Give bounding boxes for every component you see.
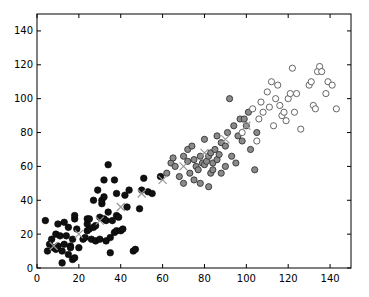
cluster-2-point xyxy=(233,160,239,166)
cluster-1-point xyxy=(105,161,112,168)
cluster-1-point xyxy=(67,244,74,251)
cluster-3-point xyxy=(256,116,262,122)
cluster-3-point xyxy=(289,65,295,71)
cluster-1-point xyxy=(97,236,104,243)
cluster-2-point xyxy=(222,143,228,149)
cluster-1-point xyxy=(101,194,108,201)
cluster-3-point xyxy=(275,82,281,88)
y-tick-label: 100 xyxy=(14,93,33,104)
cluster-3-point xyxy=(323,90,329,96)
cluster-2-point xyxy=(191,177,197,183)
cluster-2-point xyxy=(197,180,203,186)
cluster-2-point xyxy=(231,123,237,129)
y-tick-label: 40 xyxy=(20,195,33,206)
cluster-3-point xyxy=(277,102,283,108)
cluster-1-point xyxy=(107,249,114,256)
cluster-2-point xyxy=(218,170,224,176)
cluster-2-point xyxy=(229,153,235,159)
cluster-1-point xyxy=(65,224,72,231)
cluster-3-point xyxy=(273,96,279,102)
cluster-1-point xyxy=(115,214,122,221)
cluster-3-point xyxy=(239,129,245,135)
y-tick-label: 0 xyxy=(27,263,33,274)
cluster-3-point xyxy=(260,109,266,115)
cluster-3-point xyxy=(270,123,276,129)
cluster-1-point xyxy=(90,197,97,204)
x-tick-label: 0 xyxy=(34,273,40,284)
cluster-3-point xyxy=(266,104,272,110)
cluster-2-point xyxy=(241,116,247,122)
cluster-3-point xyxy=(333,106,339,112)
cluster-3-point xyxy=(283,118,289,124)
x-tick-label: 100 xyxy=(237,273,256,284)
cluster-2-point xyxy=(191,157,197,163)
y-tick-label: 80 xyxy=(20,127,33,138)
cluster-3-point xyxy=(254,138,260,144)
cluster-1-point xyxy=(136,205,143,212)
cluster-3-point xyxy=(264,89,270,95)
cluster-1-point xyxy=(126,187,133,194)
cluster-1-point xyxy=(55,221,62,228)
cluster-3-point xyxy=(298,126,304,132)
cluster-1-point xyxy=(101,177,108,184)
cluster-3-point xyxy=(329,82,335,88)
cluster-2-point xyxy=(180,180,186,186)
cluster-3-point xyxy=(281,109,287,115)
cluster-2-point xyxy=(247,146,253,152)
x-tick-label: 40 xyxy=(114,273,127,284)
cluster-2-point xyxy=(216,151,222,157)
cluster-2-point xyxy=(185,158,191,164)
cluster-1-point xyxy=(92,222,99,229)
cluster-1-point xyxy=(69,236,76,243)
cluster-1-point xyxy=(44,248,51,255)
cluster-1-point xyxy=(61,241,68,248)
cluster-2-point xyxy=(226,96,232,102)
cluster-2-point xyxy=(164,170,170,176)
cluster-1-point xyxy=(86,216,93,223)
cluster-2-point xyxy=(224,129,230,135)
cluster-2-point xyxy=(222,163,228,169)
x-tick-label: 80 xyxy=(198,273,211,284)
x-tick-label: 60 xyxy=(156,273,169,284)
cluster-1-point xyxy=(71,212,78,219)
cluster-1-point xyxy=(124,204,131,211)
cluster-2-point xyxy=(187,170,193,176)
cluster-3-point xyxy=(268,79,274,85)
cluster-3-point xyxy=(308,79,314,85)
y-tick-label: 60 xyxy=(20,161,33,172)
cluster-1-point xyxy=(76,244,83,251)
cluster-2-point xyxy=(195,167,201,173)
cluster-2-point xyxy=(214,133,220,139)
scatter-chart: 020406080100120140020406080100120140 xyxy=(0,0,369,297)
cluster-2-point xyxy=(176,173,182,179)
cluster-1-point xyxy=(71,255,78,262)
x-tick-label: 20 xyxy=(72,273,85,284)
cluster-1-point xyxy=(59,260,66,267)
x-tick-label: 140 xyxy=(321,273,340,284)
cluster-2-point xyxy=(252,167,258,173)
cluster-1-point xyxy=(157,173,164,180)
cluster-3-point xyxy=(319,68,325,74)
cluster-1-point xyxy=(103,217,110,224)
cluster-1-point xyxy=(63,233,70,240)
cluster-1-point xyxy=(94,187,101,194)
cluster-1-point xyxy=(105,209,112,216)
cluster-1-point xyxy=(120,226,127,233)
cluster-3-point xyxy=(250,106,256,112)
y-tick-label: 20 xyxy=(20,229,33,240)
cluster-1-point xyxy=(111,177,118,184)
cluster-1-point xyxy=(57,233,64,240)
cluster-1-point xyxy=(42,217,49,224)
cluster-3-point xyxy=(291,109,297,115)
y-tick-label: 120 xyxy=(14,59,33,70)
cluster-2-point xyxy=(170,155,176,161)
cluster-2-point xyxy=(254,129,260,135)
cluster-2-point xyxy=(210,167,216,173)
y-tick-label: 140 xyxy=(14,25,33,36)
x-tick-label: 120 xyxy=(279,273,298,284)
cluster-1-point xyxy=(132,246,139,253)
cluster-2-point xyxy=(201,136,207,142)
cluster-3-point xyxy=(258,99,264,105)
cluster-2-point xyxy=(172,163,178,169)
cluster-3-point xyxy=(312,106,318,112)
